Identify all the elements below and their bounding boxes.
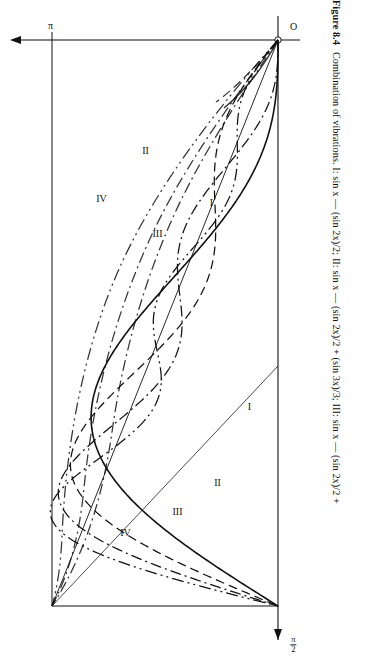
figure-caption-text: Combination of vibrations. I: sin x — (s… [330,52,343,504]
curve-label-III-right: III [153,228,163,239]
origin-label: O [290,21,297,32]
curve-label-IV-right: IV [96,193,107,204]
x-axis-arrow [274,629,282,640]
curve-label-II-right: II [142,145,149,156]
tail-II [216,40,278,102]
y-axis-pi-over-2-label: π 2 [290,635,296,654]
figure-page: I II III IV I IV II III π O π 2 Figure 8… [0,0,367,656]
x-axis-pi-label: π [48,20,53,31]
curve-label-I-right: I [210,197,213,208]
curve-II [70,40,278,606]
chord-line [52,366,278,606]
curve-I [91,40,278,606]
pi-over-2-fraction: π 2 [290,635,296,654]
curve-label-I-lower: I [248,401,251,412]
lower-fan [216,40,278,108]
reference-line-x-over-2 [52,40,278,606]
curve-label-IV-upper: IV [120,527,131,538]
figure-number: Figure 8.4 [330,0,343,45]
curve-III [58,40,278,606]
plot-container: I II III IV I IV II III π O π 2 [0,0,330,656]
figure-caption: Figure 8.4 Combination of vibrations. I:… [330,0,367,656]
curve-label-III-lower: III [173,506,183,517]
axes-group [14,16,300,640]
y-axis-arrow [10,36,21,44]
vibration-combination-chart [0,0,330,656]
tail-I [224,40,278,108]
curve-label-II-lower: II [214,477,221,488]
